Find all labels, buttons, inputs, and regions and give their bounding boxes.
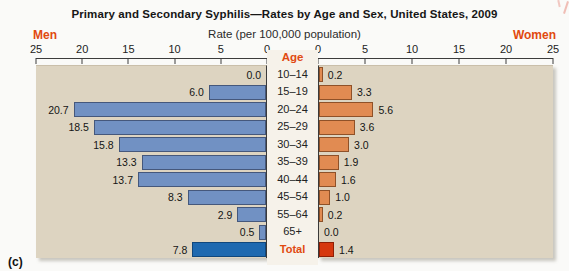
- bar-value-label: 0.5: [240, 226, 255, 238]
- axis-tick-label: 25: [30, 43, 42, 55]
- axis-tick-mark: [553, 58, 554, 64]
- men-bar-row: 0.0: [36, 66, 266, 84]
- women-bar-row: 0.2: [319, 66, 553, 84]
- axis-tick-label: 25: [547, 43, 559, 55]
- pen-stroke-icon: [563, 1, 569, 14]
- total-row-label: Total: [267, 240, 318, 258]
- axis-tick-mark: [412, 58, 413, 64]
- axis-tick-mark: [174, 58, 175, 64]
- axis-tick-mark: [365, 58, 366, 64]
- women-bar: [319, 207, 323, 222]
- bar-value-label: 0.2: [328, 209, 343, 221]
- men-axis: 2520151050: [36, 43, 267, 65]
- bar-value-label: 1.6: [341, 174, 356, 186]
- men-bar: [74, 102, 266, 117]
- scan-pen-mark: [553, 0, 569, 24]
- women-bar: [319, 102, 373, 117]
- women-bar: [319, 67, 323, 82]
- age-group-label: 30–34: [267, 135, 318, 153]
- axis-tick-label: 5: [218, 43, 224, 55]
- men-panel: 0.06.020.718.515.813.313.78.32.90.57.8: [36, 65, 267, 258]
- men-bar: [138, 172, 266, 187]
- men-bar: [237, 207, 266, 222]
- bar-value-label: 2.9: [218, 209, 233, 221]
- bar-value-label: 0.0: [324, 226, 339, 238]
- age-column: Age 10–1415–1920–2425–2930–3435–3940–444…: [267, 50, 318, 265]
- bar-value-label: 18.5: [68, 121, 88, 133]
- men-bar: [119, 137, 266, 152]
- men-bar: [142, 155, 266, 170]
- women-bar-row: 1.6: [319, 171, 553, 189]
- syphilis-pyramid-figure: Primary and Secondary Syphilis—Rates by …: [0, 0, 569, 271]
- bar-value-label: 0.0: [246, 69, 261, 81]
- subfigure-letter: (c): [8, 255, 23, 269]
- men-bar-row: 20.7: [36, 101, 266, 119]
- bar-value-label: 3.0: [354, 139, 369, 151]
- women-bar-row: 3.6: [319, 119, 553, 137]
- men-bar-row: 13.3: [36, 154, 266, 172]
- chart-title: Primary and Secondary Syphilis—Rates by …: [0, 8, 569, 20]
- age-group-label: 10–14: [267, 65, 318, 83]
- axis-tick-label: 10: [406, 43, 418, 55]
- women-bar: [319, 155, 339, 170]
- bar-value-label: 1.4: [339, 244, 354, 256]
- bar-value-label: 1.9: [344, 156, 359, 168]
- women-panel: 0.23.35.63.63.01.91.61.00.20.01.4: [318, 65, 553, 258]
- axis-tick-mark: [36, 58, 37, 64]
- women-bar: [319, 242, 334, 257]
- bar-value-label: 0.2: [328, 69, 343, 81]
- axis-tick-label: 15: [453, 43, 465, 55]
- axis-tick-mark: [128, 58, 129, 64]
- age-group-label: 25–29: [267, 118, 318, 136]
- men-bar: [188, 190, 266, 205]
- men-bar-row: 7.8: [36, 241, 266, 259]
- women-bar-row: 3.0: [319, 136, 553, 154]
- axis-tick-label: 10: [168, 43, 180, 55]
- age-group-label: 45–54: [267, 188, 318, 206]
- women-header: Women: [513, 28, 556, 42]
- men-bar-row: 8.3: [36, 189, 266, 207]
- axis-tick-label: 20: [76, 43, 88, 55]
- bar-value-label: 5.6: [378, 104, 393, 116]
- women-bar-row: 1.4: [319, 241, 553, 259]
- bar-value-label: 3.3: [357, 86, 372, 98]
- axis-tick-label: 5: [362, 43, 368, 55]
- men-bar-row: 6.0: [36, 84, 266, 102]
- bar-value-label: 1.0: [335, 191, 350, 203]
- bar-value-label: 3.6: [360, 121, 375, 133]
- men-bar: [209, 85, 266, 100]
- axis-tick-mark: [459, 58, 460, 64]
- men-rows: 0.06.020.718.515.813.313.78.32.90.57.8: [36, 66, 266, 258]
- age-group-label: 35–39: [267, 153, 318, 171]
- bar-value-label: 13.7: [113, 174, 133, 186]
- women-bar-row: 1.9: [319, 154, 553, 172]
- bar-value-label: 7.8: [173, 244, 188, 256]
- axis-tick-mark: [506, 58, 507, 64]
- bar-value-label: 6.0: [189, 86, 204, 98]
- men-bar-row: 15.8: [36, 136, 266, 154]
- women-bar: [319, 137, 349, 152]
- age-group-label: 65+: [267, 223, 318, 241]
- women-bar: [319, 85, 352, 100]
- axis-tick-label: 15: [122, 43, 134, 55]
- women-bar-row: 0.2: [319, 206, 553, 224]
- men-bar-row: 2.9: [36, 206, 266, 224]
- axis-tick-label: 20: [500, 43, 512, 55]
- age-group-label: 20–24: [267, 100, 318, 118]
- men-bar: [259, 225, 266, 240]
- women-rows: 0.23.35.63.63.01.91.61.00.20.01.4: [319, 66, 553, 258]
- men-axis-line: [36, 58, 267, 59]
- men-bar: [192, 242, 266, 257]
- women-bar: [319, 190, 330, 205]
- age-group-label: 15–19: [267, 83, 318, 101]
- bar-value-label: 13.3: [116, 156, 136, 168]
- axis-units-label: Rate (per 100,000 population): [0, 28, 569, 40]
- women-bar-row: 0.0: [319, 224, 553, 242]
- bar-value-label: 8.3: [168, 191, 183, 203]
- women-bar: [319, 172, 336, 187]
- age-rows: 10–1415–1920–2425–2930–3435–3940–4445–54…: [267, 65, 318, 258]
- men-bar-row: 0.5: [36, 224, 266, 242]
- women-bar-row: 3.3: [319, 84, 553, 102]
- axis-tick-mark: [82, 58, 83, 64]
- men-bar-row: 18.5: [36, 119, 266, 137]
